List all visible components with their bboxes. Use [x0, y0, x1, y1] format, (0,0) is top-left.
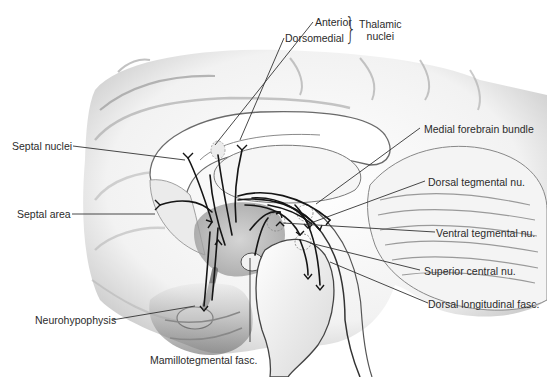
label-dorsal-tegmental-nu: Dorsal tegmental nu. — [428, 176, 525, 188]
temporal-lobe — [149, 283, 253, 355]
label-thalamic-nuclei-group: Thalamic nuclei — [359, 18, 402, 42]
label-dorsal-longitudinal-fasc: Dorsal longitudinal fasc. — [428, 298, 539, 310]
label-mamillotegmental-fasc: Mamillotegmental fasc. — [150, 354, 257, 366]
label-dorsomedial: Dorsomedial — [285, 32, 344, 44]
label-superior-central-nu: Superior central nu. — [424, 265, 516, 277]
label-neurohypophysis: Neurohypophysis — [35, 314, 116, 326]
label-nuclei: nuclei — [359, 30, 402, 42]
brace-icon: } — [345, 14, 356, 44]
label-septal-nuclei: Septal nuclei — [12, 140, 72, 152]
label-septal-area: Septal area — [17, 208, 71, 220]
label-thalamic: Thalamic — [359, 18, 402, 30]
label-medial-forebrain-bundle: Medial forebrain bundle — [424, 123, 534, 135]
brain-diagram: Anterior Dorsomedial } Thalamic nuclei S… — [0, 0, 547, 377]
label-ventral-tegmental-nu: Ventral tegmental nu. — [436, 227, 535, 239]
